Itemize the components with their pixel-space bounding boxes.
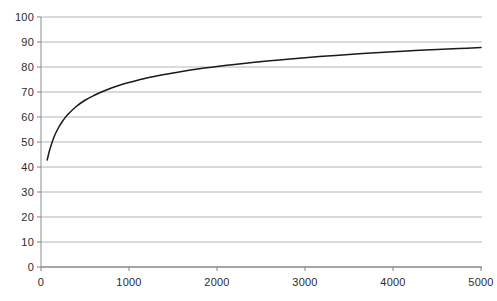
gridlines — [41, 17, 482, 267]
y-axis-tick-label: 0 — [28, 261, 34, 273]
y-axis-tick-label: 100 — [15, 11, 34, 23]
y-axis-tick-label: 70 — [21, 86, 34, 98]
y-axis-tick-label: 50 — [21, 136, 34, 148]
y-axis-tick-marks — [37, 17, 41, 267]
y-axis-tick-label: 10 — [21, 236, 34, 248]
x-axis-tick-label: 5000 — [468, 276, 493, 288]
x-axis-tick-label: 2000 — [204, 276, 229, 288]
x-axis-tick-label: 0 — [38, 276, 44, 288]
y-axis-tick-label: 80 — [21, 61, 34, 73]
y-axis-tick-label: 30 — [21, 186, 34, 198]
y-axis-tick-label: 60 — [21, 111, 34, 123]
y-axis-tick-label: 90 — [21, 36, 34, 48]
y-axis-tick-label: 40 — [21, 161, 34, 173]
data-series-line — [47, 48, 481, 161]
x-axis-tick-label: 3000 — [292, 276, 317, 288]
chart-plot-area — [0, 0, 497, 301]
y-axis-tick-label: 20 — [21, 211, 34, 223]
x-axis-tick-marks — [41, 267, 481, 271]
x-axis-tick-label: 4000 — [380, 276, 405, 288]
chart-container: 0102030405060708090100 01000200030004000… — [0, 0, 497, 301]
x-axis-tick-label: 1000 — [116, 276, 141, 288]
